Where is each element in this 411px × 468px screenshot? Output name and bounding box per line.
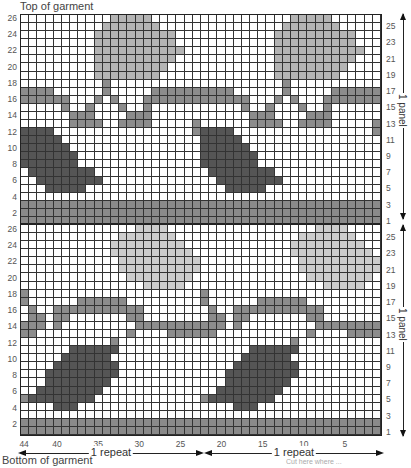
grid-cell bbox=[226, 298, 234, 306]
grid-cell bbox=[226, 419, 234, 427]
grid-cell bbox=[46, 257, 54, 265]
grid-cell bbox=[152, 209, 160, 217]
grid-cell bbox=[70, 370, 78, 378]
grid-cell bbox=[307, 249, 315, 257]
grid-cell bbox=[373, 378, 381, 386]
grid-cell bbox=[299, 23, 307, 31]
grid-cell bbox=[54, 265, 62, 273]
grid-cell bbox=[103, 378, 111, 386]
grid-cell bbox=[127, 314, 135, 322]
grid-cell bbox=[209, 338, 217, 346]
grid-cell bbox=[103, 185, 111, 193]
grid-cell bbox=[324, 193, 332, 201]
grid-cell bbox=[46, 419, 54, 427]
grid-cell bbox=[37, 314, 45, 322]
grid-cell bbox=[160, 47, 168, 55]
grid-cell bbox=[283, 47, 291, 55]
grid-cell bbox=[316, 419, 324, 427]
grid-cell bbox=[356, 265, 364, 273]
grid-cell bbox=[348, 306, 356, 314]
grid-cell bbox=[266, 177, 274, 185]
grid-cell bbox=[152, 378, 160, 386]
grid-cell bbox=[283, 378, 291, 386]
grid-cell bbox=[70, 265, 78, 273]
grid-cell bbox=[258, 225, 266, 233]
grid-cell bbox=[324, 387, 332, 395]
grid-cell bbox=[86, 370, 94, 378]
grid-cell bbox=[217, 104, 225, 112]
grid-cell bbox=[127, 80, 135, 88]
grid-cell bbox=[299, 144, 307, 152]
grid-cell bbox=[78, 395, 86, 403]
grid-cell bbox=[70, 160, 78, 168]
grid-cell bbox=[160, 273, 168, 281]
grid-cell bbox=[70, 55, 78, 63]
grid-cell bbox=[46, 395, 54, 403]
grid-cell bbox=[283, 241, 291, 249]
grid-cell bbox=[348, 290, 356, 298]
grid-cell bbox=[78, 63, 86, 71]
grid-cell bbox=[111, 193, 119, 201]
grid-cell bbox=[176, 63, 184, 71]
grid-cell bbox=[324, 306, 332, 314]
grid-cell bbox=[70, 427, 78, 435]
grid-cell bbox=[201, 120, 209, 128]
grid-cell bbox=[365, 168, 373, 176]
grid-cell bbox=[234, 144, 242, 152]
grid-cell bbox=[119, 298, 127, 306]
grid-cell bbox=[62, 306, 70, 314]
grid-cell bbox=[209, 112, 217, 120]
grid-cell bbox=[86, 80, 94, 88]
grid-cell bbox=[62, 314, 70, 322]
grid-cell bbox=[78, 411, 86, 419]
grid-cell bbox=[46, 47, 54, 55]
grid-cell bbox=[29, 387, 37, 395]
grid-cell bbox=[86, 378, 94, 386]
grid-cell bbox=[365, 354, 373, 362]
grid-cell bbox=[324, 282, 332, 290]
grid-cell bbox=[21, 55, 29, 63]
grid-cell bbox=[299, 427, 307, 435]
grid-cell bbox=[299, 120, 307, 128]
grid-cell bbox=[324, 330, 332, 338]
grid-cell bbox=[127, 55, 135, 63]
grid-cell bbox=[234, 112, 242, 120]
grid-cell bbox=[307, 314, 315, 322]
grid-cell bbox=[242, 120, 250, 128]
grid-cell bbox=[29, 265, 37, 273]
grid-cell bbox=[324, 136, 332, 144]
grid-cell bbox=[201, 23, 209, 31]
grid-cell bbox=[62, 31, 70, 39]
grid-cell bbox=[250, 112, 258, 120]
grid-cell bbox=[291, 290, 299, 298]
grid-cell bbox=[356, 249, 364, 257]
grid-cell bbox=[242, 395, 250, 403]
grid-cell bbox=[86, 96, 94, 104]
grid-cell bbox=[217, 427, 225, 435]
grid-cell bbox=[275, 217, 283, 225]
grid-cell bbox=[29, 273, 37, 281]
grid-cell bbox=[54, 273, 62, 281]
grid-cell bbox=[127, 225, 135, 233]
grid-cell bbox=[283, 152, 291, 160]
grid-cell bbox=[119, 273, 127, 281]
grid-cell bbox=[29, 249, 37, 257]
grid-cell bbox=[234, 96, 242, 104]
row-label: 24 bbox=[2, 29, 17, 39]
grid-cell bbox=[209, 128, 217, 136]
grid-cell bbox=[119, 80, 127, 88]
grid-cell bbox=[209, 346, 217, 354]
grid-cell bbox=[266, 322, 274, 330]
grid-cell bbox=[234, 395, 242, 403]
grid-cell bbox=[209, 88, 217, 96]
grid-cell bbox=[119, 201, 127, 209]
grid-cell bbox=[95, 354, 103, 362]
grid-cell bbox=[127, 395, 135, 403]
grid-cell bbox=[37, 144, 45, 152]
grid-cell bbox=[136, 144, 144, 152]
grid-cell bbox=[152, 120, 160, 128]
grid-cell bbox=[185, 257, 193, 265]
grid-cell bbox=[54, 201, 62, 209]
grid-cell bbox=[168, 128, 176, 136]
grid-cell bbox=[291, 378, 299, 386]
